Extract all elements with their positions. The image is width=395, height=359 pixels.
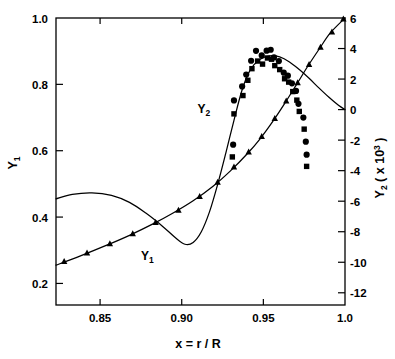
svg-text:Y1: Y1 bbox=[6, 156, 22, 169]
curve-y1-curve bbox=[56, 18, 345, 265]
marker-triangle bbox=[175, 207, 181, 213]
marker-circle bbox=[259, 52, 265, 58]
marker-square bbox=[304, 164, 309, 169]
chart-svg: 0.850.900.951.0 0.20.40.60.81.0 -12-10-8… bbox=[0, 0, 395, 359]
marker-circle bbox=[303, 139, 309, 145]
y-right-tick-label: 2 bbox=[350, 74, 356, 86]
y-left-tick-label: 0.8 bbox=[32, 79, 49, 91]
marker-circle bbox=[231, 97, 237, 103]
marker-square bbox=[290, 89, 295, 94]
y-left-tick-label: 0.2 bbox=[32, 278, 48, 290]
marker-circle bbox=[253, 48, 259, 54]
marker-circle bbox=[300, 114, 306, 120]
svg-text:x = r / R: x = r / R bbox=[175, 337, 221, 351]
marker-square bbox=[231, 111, 236, 116]
y-right-tick-label: 0 bbox=[350, 104, 356, 116]
marker-circle bbox=[248, 58, 254, 64]
curve-label-y1: Y1 bbox=[141, 249, 154, 265]
y-right-tick-label: -10 bbox=[350, 257, 367, 269]
marker-circle bbox=[230, 142, 236, 148]
x-tick-label: 0.90 bbox=[171, 312, 193, 324]
marker-square bbox=[269, 57, 274, 62]
y-right-tick-label: -6 bbox=[350, 196, 360, 208]
y-axis-left-title: Y1 bbox=[6, 156, 22, 169]
marker-square bbox=[249, 66, 254, 71]
marker-square bbox=[245, 78, 250, 83]
marker-square bbox=[260, 61, 265, 66]
marker-triangle bbox=[196, 193, 202, 199]
y-left-tick-label: 0.4 bbox=[32, 212, 49, 224]
y-right-tick-label: -2 bbox=[350, 135, 360, 147]
curve-y2-curve bbox=[56, 56, 345, 245]
marker-square bbox=[297, 109, 302, 114]
y-left-tick-label: 1.0 bbox=[32, 13, 48, 25]
y-right-tick-label: -4 bbox=[350, 165, 361, 177]
y-right-tick-label: 6 bbox=[350, 13, 356, 25]
marker-square bbox=[272, 63, 277, 68]
marker-square bbox=[255, 58, 260, 63]
marker-square bbox=[294, 97, 299, 102]
marker-circle bbox=[268, 47, 274, 53]
chart-figure: 0.850.900.951.0 0.20.40.60.81.0 -12-10-8… bbox=[0, 0, 395, 359]
marker-square bbox=[301, 126, 306, 131]
marker-square bbox=[230, 154, 235, 159]
y-right-tick-label: -12 bbox=[350, 287, 367, 299]
marker-circle bbox=[243, 71, 249, 77]
x-tick-label: 1.0 bbox=[337, 312, 353, 324]
y-right-tick-label: 4 bbox=[350, 43, 357, 55]
marker-square bbox=[240, 93, 245, 98]
marker-circle bbox=[239, 83, 245, 89]
curve-label-y2: Y2 bbox=[197, 102, 210, 118]
y-right-tick-label: -8 bbox=[350, 226, 361, 238]
svg-text:Y2 ( x 103 ): Y2 ( x 103 ) bbox=[372, 138, 390, 199]
plot-frame bbox=[56, 18, 345, 305]
marker-square bbox=[277, 67, 282, 72]
y-axis-right-title: Y2 ( x 103 ) bbox=[372, 138, 390, 199]
y-left-tick-label: 0.6 bbox=[32, 145, 48, 157]
chart-curve-labels: Y1Y2 bbox=[141, 102, 210, 265]
x-tick-label: 0.95 bbox=[252, 312, 275, 324]
chart-curves bbox=[56, 18, 345, 265]
x-tick-label: 0.85 bbox=[89, 312, 112, 324]
marker-square bbox=[286, 79, 291, 84]
x-axis-title: x = r / R bbox=[175, 337, 221, 351]
y-axis-left-ticks: 0.20.40.60.81.0 bbox=[32, 13, 63, 290]
marker-triangle bbox=[214, 179, 220, 185]
y-axis-right-ticks: -12-10-8-6-4-20246 bbox=[338, 13, 367, 300]
marker-circle bbox=[304, 152, 310, 158]
